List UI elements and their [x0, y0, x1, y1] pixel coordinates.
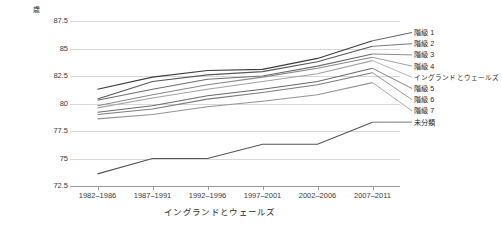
legend-leader-line	[373, 57, 413, 66]
legend-item[interactable]: 階級 5	[414, 83, 502, 94]
legend-leader-line	[373, 83, 413, 111]
series-line	[98, 122, 373, 174]
legend-item[interactable]: 階級 6	[414, 94, 502, 105]
legend-item[interactable]: 階級 1	[414, 27, 502, 38]
series-line	[98, 68, 373, 112]
chart-legend: 階級 1階級 2階級 3階級 4イングランドとウェールズ階級 5階級 6階級 7…	[414, 27, 502, 128]
legend-leader-line	[373, 54, 413, 55]
legend-leader-line	[373, 44, 413, 47]
series-line	[98, 54, 373, 100]
series-line	[98, 61, 373, 108]
x-axis-title: イングランドとウェールズ	[0, 205, 440, 217]
legend-leader-line	[373, 73, 413, 100]
legend-item[interactable]: イングランドとウェールズ	[414, 72, 502, 83]
line-chart: 歳 72.57577.58082.58587.5 1982–19861987–1…	[0, 0, 502, 226]
series-line	[98, 73, 373, 115]
legend-leader-line	[373, 68, 413, 88]
legend-item[interactable]: 階級 7	[414, 105, 502, 116]
legend-item[interactable]: 階級 4	[414, 61, 502, 72]
legend-item[interactable]: 階級 2	[414, 38, 502, 49]
legend-leader-line	[373, 61, 413, 78]
legend-leader-line	[373, 33, 413, 41]
legend-item[interactable]: 未分類	[414, 117, 502, 128]
legend-item[interactable]: 階級 3	[414, 49, 502, 60]
